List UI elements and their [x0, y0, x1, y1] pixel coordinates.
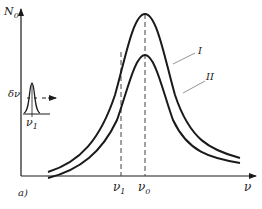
inset-line-profile: δν ν1 [8, 83, 56, 131]
resonance-diagram: N0 ν a) ν1 ν0 I II δν ν1 [0, 0, 262, 209]
x-axis-label: ν [244, 180, 251, 194]
panel-label: a) [18, 187, 28, 198]
inset-center-label: ν1 [26, 116, 38, 131]
tick-nu1: ν1 [113, 180, 125, 196]
curve-II-label: II [205, 71, 215, 82]
curve-I [48, 14, 240, 172]
tick-nu0: ν0 [138, 180, 150, 196]
inset-width-label: δν [8, 88, 20, 99]
curve-II-leader [183, 81, 205, 93]
y-axis-label: N0 [3, 5, 19, 20]
curve-I-label: I [197, 45, 203, 56]
curve-I-leader [173, 53, 195, 64]
